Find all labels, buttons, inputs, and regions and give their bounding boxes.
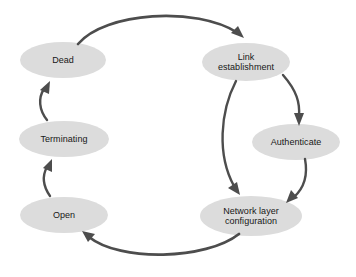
node-shape-terminating[interactable] (19, 121, 109, 157)
edge-terminating-to-dead (40, 81, 50, 120)
edge-link-establishment-to-authenticate (283, 75, 304, 126)
node-shapes (19, 42, 340, 236)
diagram-canvas (0, 0, 356, 277)
edge-dead-to-link-establishment (78, 16, 244, 44)
edge-authenticate-to-network-layer-configuration (286, 159, 306, 203)
ppp-transition-state-diagram: Dead Link establishment Authenticate Net… (0, 0, 356, 277)
edge-link-establishment-to-network-layer-configuration (223, 81, 240, 195)
edge-open-to-terminating (43, 159, 52, 196)
edge-network-layer-configuration-to-open (82, 231, 239, 255)
node-shape-dead[interactable] (20, 42, 106, 78)
node-shape-open[interactable] (20, 197, 108, 233)
node-shape-link-establishment[interactable] (202, 43, 290, 81)
node-shape-authenticate[interactable] (252, 124, 340, 160)
